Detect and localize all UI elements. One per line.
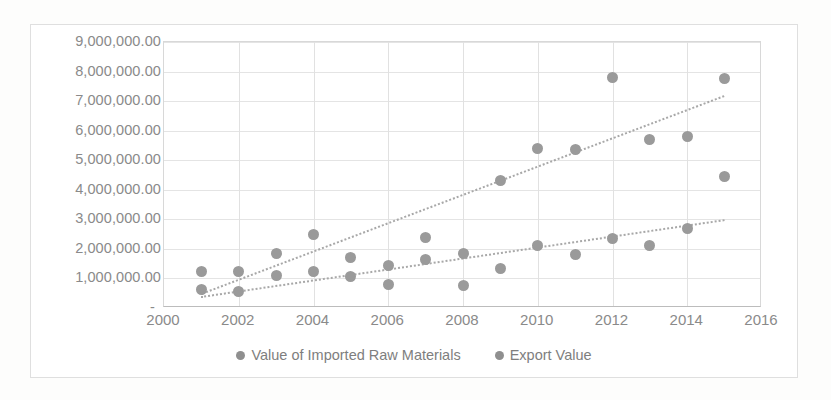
data-point xyxy=(682,131,693,142)
data-point xyxy=(719,171,730,182)
y-axis-tick-label: 8,000,000.00 xyxy=(39,63,161,79)
gridline-vertical xyxy=(463,42,464,306)
data-point xyxy=(570,144,581,155)
data-point xyxy=(233,286,244,297)
x-axis-tick-label: 2008 xyxy=(445,311,478,328)
y-axis-tick-label: - xyxy=(33,299,161,315)
x-axis-tick-label: 2014 xyxy=(670,311,703,328)
data-point xyxy=(196,284,207,295)
x-axis: 200020022004200620082010201220142016 xyxy=(163,311,761,337)
gridline-vertical xyxy=(687,42,688,306)
x-axis-tick-label: 2010 xyxy=(520,311,553,328)
data-point xyxy=(308,266,319,277)
data-point xyxy=(420,254,431,265)
data-point xyxy=(495,263,506,274)
data-point xyxy=(345,271,356,282)
y-axis-tick-label: 9,000,000.00 xyxy=(39,33,161,49)
legend-item[interactable]: Export Value xyxy=(495,347,592,363)
chart-legend: Value of Imported Raw MaterialsExport Va… xyxy=(31,347,797,363)
data-point xyxy=(607,233,618,244)
gridline-horizontal xyxy=(164,72,760,73)
x-axis-tick-label: 2000 xyxy=(146,311,179,328)
gridline-horizontal xyxy=(164,42,760,43)
gridline-vertical xyxy=(538,42,539,306)
plot-area xyxy=(163,41,761,307)
gridline-horizontal xyxy=(164,219,760,220)
data-point xyxy=(495,175,506,186)
data-point xyxy=(719,73,730,84)
x-axis-tick-label: 2006 xyxy=(371,311,404,328)
legend-item[interactable]: Value of Imported Raw Materials xyxy=(236,347,460,363)
chart-frame: 9,000,000.008,000,000.007,000,000.006,00… xyxy=(30,24,798,378)
y-axis-tick-label: 3,000,000.00 xyxy=(39,210,161,226)
gridline-horizontal xyxy=(164,278,760,279)
data-point xyxy=(345,252,356,263)
y-axis-tick-label: 5,000,000.00 xyxy=(39,151,161,167)
data-point xyxy=(271,248,282,259)
x-axis-tick-label: 2012 xyxy=(595,311,628,328)
x-axis-tick-label: 2016 xyxy=(744,311,777,328)
legend-label: Value of Imported Raw Materials xyxy=(251,347,460,363)
data-point xyxy=(271,270,282,281)
x-axis-tick-label: 2004 xyxy=(296,311,329,328)
data-point xyxy=(532,143,543,154)
data-point xyxy=(308,229,319,240)
y-axis-tick-label: 6,000,000.00 xyxy=(39,122,161,138)
data-point xyxy=(383,260,394,271)
legend-marker-circle-icon xyxy=(236,351,245,360)
y-axis-tick-label: 2,000,000.00 xyxy=(39,240,161,256)
gridline-horizontal xyxy=(164,190,760,191)
data-point xyxy=(458,248,469,259)
gridline-horizontal xyxy=(164,160,760,161)
y-axis: 9,000,000.008,000,000.007,000,000.006,00… xyxy=(39,25,161,379)
gridline-horizontal xyxy=(164,131,760,132)
data-point xyxy=(644,134,655,145)
x-axis-tick-label: 2002 xyxy=(221,311,254,328)
data-point xyxy=(682,223,693,234)
y-axis-tick-label: 7,000,000.00 xyxy=(39,92,161,108)
data-point xyxy=(233,266,244,277)
data-point xyxy=(570,249,581,260)
y-axis-tick-label: 4,000,000.00 xyxy=(39,181,161,197)
data-point xyxy=(458,280,469,291)
data-point xyxy=(383,279,394,290)
data-point xyxy=(420,232,431,243)
y-axis-tick-label: 1,000,000.00 xyxy=(39,269,161,285)
legend-marker-circle-icon xyxy=(495,351,504,360)
gridline-horizontal xyxy=(164,101,760,102)
data-point xyxy=(607,72,618,83)
data-point xyxy=(196,266,207,277)
legend-label: Export Value xyxy=(510,347,592,363)
